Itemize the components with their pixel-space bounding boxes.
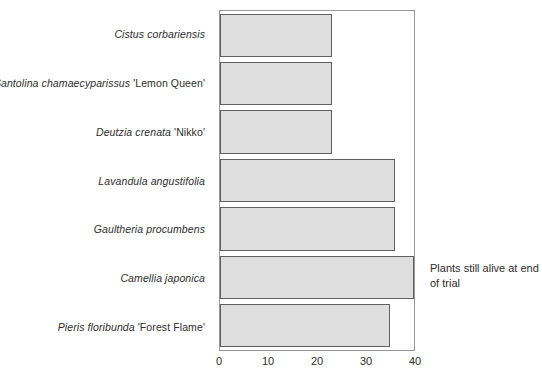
bar bbox=[220, 110, 332, 153]
bar-row bbox=[220, 302, 414, 350]
species-name: Deutzia crenata bbox=[96, 126, 171, 138]
category-label: Cistus corbariensis bbox=[0, 10, 212, 59]
cultivar-name: 'Forest Flame' bbox=[138, 321, 205, 333]
category-label: Pieris floribunda'Forest Flame' bbox=[0, 302, 212, 351]
bar-row bbox=[220, 11, 414, 59]
bar-chart-figure: Cistus corbariensisSantolina chamaecypar… bbox=[0, 0, 542, 384]
bar bbox=[220, 256, 414, 299]
cultivar-name: 'Nikko' bbox=[174, 126, 205, 138]
bar-row bbox=[220, 253, 414, 301]
category-label: Santolina chamaecyparissus'Lemon Queen' bbox=[0, 59, 212, 108]
cultivar-name: 'Lemon Queen' bbox=[133, 77, 205, 89]
bar-row bbox=[220, 59, 414, 107]
bar bbox=[220, 159, 395, 202]
x-tick-label: 10 bbox=[262, 355, 274, 367]
bar-row bbox=[220, 156, 414, 204]
bar bbox=[220, 304, 390, 347]
bar-row bbox=[220, 108, 414, 156]
category-label: Gaultheria procumbens bbox=[0, 205, 212, 254]
bar-row bbox=[220, 205, 414, 253]
bar bbox=[220, 207, 395, 250]
category-label: Camellia japonica bbox=[0, 254, 212, 303]
plot-area bbox=[219, 10, 415, 351]
category-label: Deutzia crenata'Nikko' bbox=[0, 107, 212, 156]
species-name: Gaultheria procumbens bbox=[94, 223, 205, 235]
category-labels: Cistus corbariensisSantolina chamaecypar… bbox=[0, 10, 212, 351]
annotation-plants-still-alive: Plants still alive at end of trial bbox=[430, 261, 542, 291]
x-tick-label: 0 bbox=[216, 355, 222, 367]
x-tick-label: 30 bbox=[360, 355, 372, 367]
x-tick-label: 40 bbox=[409, 355, 421, 367]
x-tick-label: 20 bbox=[311, 355, 323, 367]
x-axis: 010203040 bbox=[219, 355, 415, 371]
bar bbox=[220, 62, 332, 105]
species-name: Camellia japonica bbox=[120, 272, 205, 284]
species-name: Santolina chamaecyparissus bbox=[0, 77, 130, 89]
category-label: Lavandula angustifolia bbox=[0, 156, 212, 205]
species-name: Cistus corbariensis bbox=[114, 28, 205, 40]
species-name: Pieris floribunda bbox=[58, 321, 135, 333]
species-name: Lavandula angustifolia bbox=[98, 175, 205, 187]
bar bbox=[220, 14, 332, 57]
